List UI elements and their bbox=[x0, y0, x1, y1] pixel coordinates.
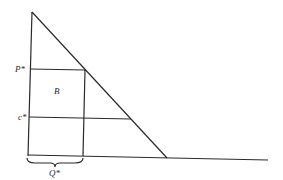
price-line bbox=[30, 69, 86, 70]
demand-curve bbox=[32, 12, 167, 158]
cost-line bbox=[29, 117, 131, 119]
economics-diagram: P* c* B Q* bbox=[0, 0, 283, 180]
quantity-line bbox=[83, 70, 85, 156]
cost-label: c* bbox=[18, 112, 27, 122]
vertical-axis bbox=[28, 12, 32, 156]
horizontal-axis bbox=[28, 155, 268, 160]
quantity-brace bbox=[27, 158, 83, 167]
quantity-label: Q* bbox=[49, 168, 60, 178]
price-label: P* bbox=[14, 64, 25, 74]
area-label: B bbox=[54, 86, 60, 96]
